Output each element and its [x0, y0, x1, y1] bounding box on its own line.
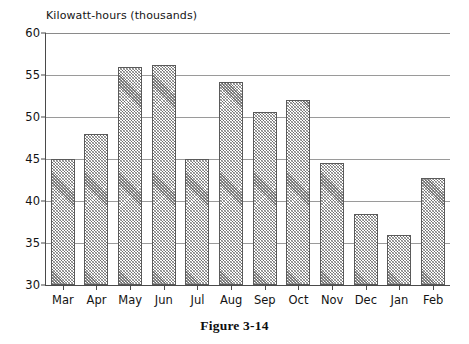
x-tick-label: Jan	[391, 293, 409, 307]
x-tick-mark	[332, 285, 333, 290]
x-tick-mark	[130, 285, 131, 290]
x-tick-slot: Feb	[416, 33, 450, 285]
x-tick-slot: May	[113, 33, 147, 285]
x-tick-slot: Oct	[282, 33, 316, 285]
figure-caption: Figure 3-14	[0, 318, 469, 334]
x-tick-slot: Dec	[349, 33, 383, 285]
x-tick-mark	[433, 285, 434, 290]
x-tick-mark	[197, 285, 198, 290]
x-tick-slot: Apr	[80, 33, 114, 285]
x-tick-slot: Sep	[248, 33, 282, 285]
x-tick-label: Oct	[289, 293, 309, 307]
x-tick-label: Dec	[355, 293, 377, 307]
x-tick-slot: Aug	[214, 33, 248, 285]
y-tick-label: 35	[25, 236, 40, 250]
chart-axis-title: Kilowatt-hours (thousands)	[46, 9, 197, 22]
x-tick-slot: Nov	[315, 33, 349, 285]
x-tick-mark	[63, 285, 64, 290]
x-tick-label: Jun	[155, 293, 173, 307]
y-tick-label: 40	[25, 194, 40, 208]
x-tick-slot: Jul	[181, 33, 215, 285]
x-tick-mark	[399, 285, 400, 290]
x-tick-label: Sep	[254, 293, 276, 307]
x-tick-label: Feb	[423, 293, 443, 307]
y-tick-label: 50	[25, 110, 40, 124]
figure-container: Kilowatt-hours (thousands) 3035404550556…	[0, 0, 469, 344]
y-tick-label: 55	[25, 68, 40, 82]
x-tick-label: May	[118, 293, 142, 307]
x-tick-mark	[231, 285, 232, 290]
x-tick-slot: Jan	[383, 33, 417, 285]
x-tick-label: Aug	[220, 293, 242, 307]
y-tick-label: 60	[25, 26, 40, 40]
x-tick-mark	[298, 285, 299, 290]
y-tick-label: 30	[25, 278, 40, 292]
y-tick-label: 45	[25, 152, 40, 166]
x-tick-slot: Mar	[46, 33, 80, 285]
x-tick-label: Nov	[321, 293, 343, 307]
x-tick-mark	[265, 285, 266, 290]
x-tick-label: Apr	[87, 293, 107, 307]
x-tick-mark	[96, 285, 97, 290]
plot-area: 30354045505560 MarAprMayJunJulAugSepOctN…	[45, 33, 450, 286]
x-tick-mark	[366, 285, 367, 290]
x-tick-slot: Jun	[147, 33, 181, 285]
x-tick-label: Jul	[191, 293, 205, 307]
x-tick-label: Mar	[52, 293, 74, 307]
x-tick-mark	[164, 285, 165, 290]
